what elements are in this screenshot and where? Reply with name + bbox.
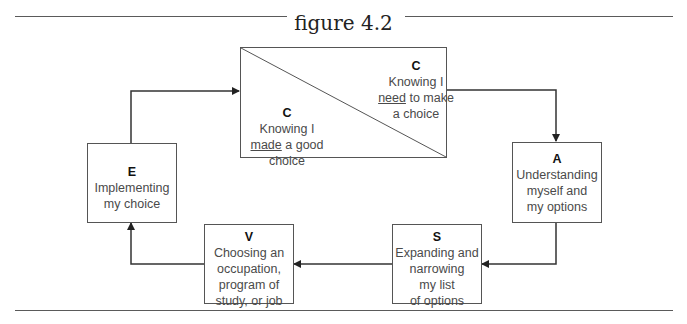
arrow-e-to-c — [131, 91, 239, 143]
arrow-a-to-s — [482, 222, 556, 264]
node-letter: C — [371, 58, 461, 74]
node-e-implementing: E Implementing my choice — [87, 143, 177, 223]
footer-rule — [15, 310, 673, 311]
node-letter: S — [393, 229, 481, 245]
node-letter: E — [88, 164, 176, 180]
arrow-c-to-a — [446, 90, 556, 141]
node-a-understanding: A Understanding myself and my options — [512, 142, 602, 223]
node-c-need-choice: C Knowing I need to make a choice — [371, 58, 461, 122]
node-letter: A — [513, 151, 601, 167]
arrow-v-to-e — [131, 223, 204, 264]
node-letter: C — [247, 105, 327, 121]
node-c-made-choice: C Knowing I made a good choice — [247, 105, 327, 169]
node-c-choice: C Knowing I need to make a choice C Know… — [240, 47, 447, 158]
node-s-expanding: S Expanding and narrowing my list of opt… — [392, 224, 482, 304]
node-v-choosing: V Choosing an occupation, program of stu… — [204, 224, 294, 304]
node-letter: V — [205, 229, 293, 245]
